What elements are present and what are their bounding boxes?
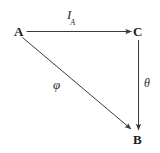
node-label-a: A: [14, 25, 23, 38]
edge-label-phi: φ: [53, 78, 60, 91]
node-label-b: B: [133, 133, 142, 146]
edge-label-theta: θ: [144, 77, 150, 89]
edge-label-identity: IA: [67, 8, 76, 25]
edge-a-to-b: [23, 38, 132, 130]
node-label-c: C: [133, 25, 142, 38]
edge-label-identity-subscript: A: [70, 18, 75, 27]
diagram-canvas: [0, 0, 160, 153]
commutative-diagram: A C B IA θ φ: [0, 0, 160, 153]
